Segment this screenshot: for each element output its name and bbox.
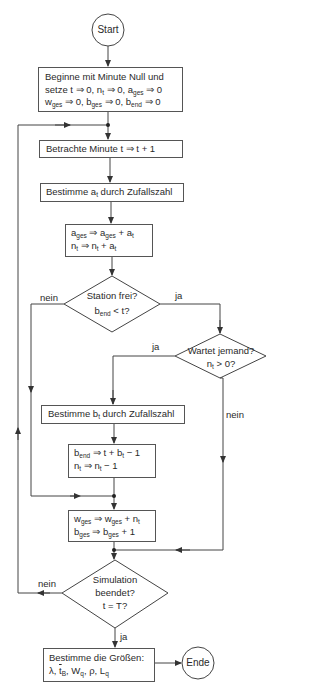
simulation-done-line1: Simulation [75, 573, 155, 586]
start-terminal: Start [92, 24, 124, 35]
accumulate-line2: bges ⇒ bges + 1 [74, 526, 140, 539]
simulation-done-line2: beendet? [75, 586, 155, 599]
init-line2: setze t ⇒ 0, nt ⇒ 0, ages ⇒ 0 [45, 84, 164, 97]
start-label: Start [97, 24, 118, 35]
decision-station-free: Station frei? bend < t? [72, 289, 152, 317]
end-terminal: Ende [182, 657, 214, 668]
init-line3: wges ⇒ 0, bges ⇒ 0, bend ⇒ 0 [45, 96, 164, 109]
process-init-text: Beginne mit Minute Null und setze t ⇒ 0,… [45, 71, 164, 109]
process-next-minute-text: Betrachte Minute t ⇒ t + 1 [46, 143, 155, 156]
someone-waiting-line2: nt > 0? [180, 357, 262, 370]
someone-waiting-no-label: nein [226, 409, 244, 421]
decision-simulation-done: Simulation beendet? t = T? [75, 573, 155, 612]
accumulate-line1: wges ⇒ wges + nt [74, 513, 140, 526]
end-label: Ende [186, 657, 209, 668]
station-free-line2: bend < t? [72, 304, 152, 317]
start-service-line2: nt ⇒ nt − 1 [74, 460, 140, 473]
simulation-done-yes-label: ja [120, 631, 127, 643]
someone-waiting-line1: Wartet jemand? [180, 344, 262, 357]
station-free-line1: Station frei? [72, 289, 152, 302]
someone-waiting-yes-label: ja [152, 341, 159, 353]
decision-someone-waiting: Wartet jemand? nt > 0? [180, 344, 262, 370]
process-compute-results-text: Bestimme die Größen: λ, tB, Wq, ρ, Lq [49, 652, 144, 677]
init-line1: Beginne mit Minute Null und [45, 71, 164, 84]
station-free-yes-label: ja [175, 290, 182, 302]
station-free-no-label: nein [40, 292, 58, 304]
process-update-arrivals-text: ages ⇒ ages + at nt ⇒ nt + at [71, 227, 134, 252]
junction-dot [106, 123, 110, 127]
compute-results-line2: λ, tB, Wq, ρ, Lq [49, 665, 144, 678]
process-service-time-text: Bestimme bt durch Zufallszahl [48, 408, 174, 421]
compute-results-line1: Bestimme die Größen: [49, 652, 144, 665]
update-arrivals-line1: ages ⇒ ages + at [71, 227, 134, 240]
start-service-line1: bend ⇒ t + bt − 1 [74, 447, 140, 460]
simulation-done-line3: t = T? [75, 599, 155, 612]
simulation-done-no-label: nein [38, 578, 56, 590]
process-accumulate-text: wges ⇒ wges + nt bges ⇒ bges + 1 [74, 513, 140, 538]
update-arrivals-line2: nt ⇒ nt + at [71, 240, 134, 253]
junction-dot [112, 494, 116, 498]
junction-dot [112, 548, 116, 552]
process-start-service-text: bend ⇒ t + bt − 1 nt ⇒ nt − 1 [74, 447, 140, 472]
process-arrivals-text: Bestimme at durch Zufallszahl [46, 186, 172, 199]
